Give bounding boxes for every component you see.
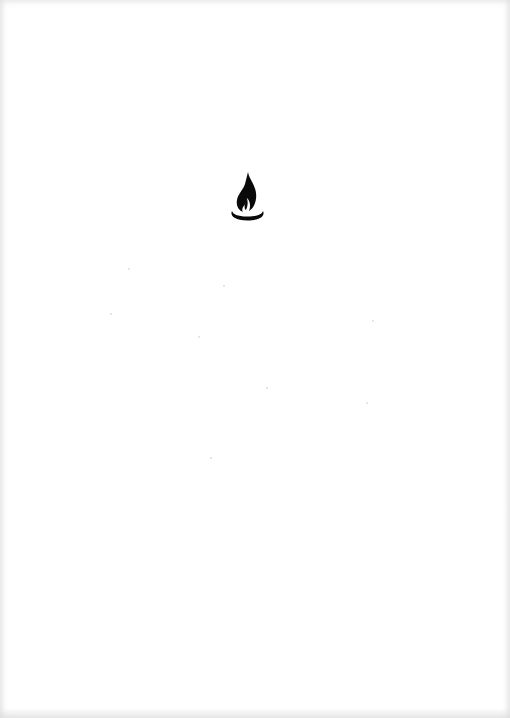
document-page: [0, 0, 510, 718]
page-edge-left: [0, 0, 6, 718]
paper-speck: [223, 285, 225, 287]
paper-speck: [372, 320, 374, 322]
paper-speck: [366, 402, 368, 404]
flame-icon: [229, 171, 266, 223]
paper-speck: [110, 313, 112, 315]
page-edge-right: [504, 0, 510, 718]
page-edge-bottom: [0, 708, 510, 718]
paper-speck: [266, 387, 268, 389]
page-edge-top: [0, 0, 510, 5]
paper-speck: [210, 457, 212, 459]
paper-speck: [128, 268, 130, 270]
paper-speck: [198, 336, 200, 338]
